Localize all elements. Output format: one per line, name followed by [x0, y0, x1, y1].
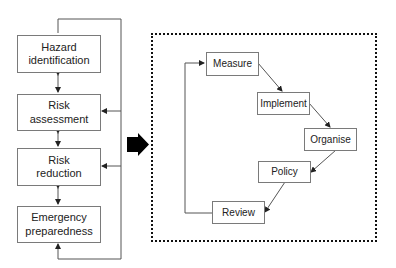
box-policy: Policy: [258, 161, 311, 183]
right-arrow-icon: [127, 133, 149, 156]
box-measure: Measure: [206, 52, 259, 76]
box-organise: Organise: [304, 128, 357, 151]
box-emergency-preparedness: Emergencypreparedness: [17, 206, 101, 243]
box-implement: Implement: [257, 92, 310, 115]
box-review: Review: [212, 201, 265, 224]
box-risk-assessment: Riskassessment: [17, 94, 101, 131]
box-hazard-identification: Hazardidentification: [17, 35, 101, 73]
box-risk-reduction: Riskreduction: [17, 148, 101, 186]
